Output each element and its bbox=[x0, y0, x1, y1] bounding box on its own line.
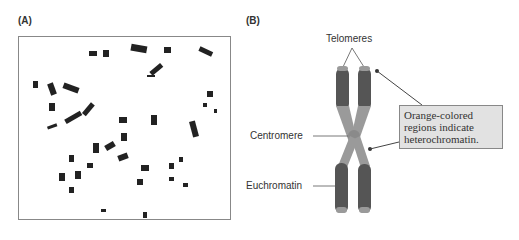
callout-line-2: regions indicate bbox=[404, 121, 498, 133]
telomeres-label: Telomeres bbox=[326, 33, 372, 44]
callout-line-3: heterochromatin. bbox=[404, 133, 498, 145]
euchromatin-lower-right bbox=[358, 164, 371, 213]
callout-line-1: Orange-colored bbox=[404, 109, 498, 121]
centromere-label: Centromere bbox=[250, 130, 303, 141]
euchromatin-upper-left bbox=[336, 68, 349, 110]
euchromatin-lower-left bbox=[335, 163, 348, 213]
euchromatin-upper-right bbox=[358, 68, 371, 110]
heterochromatin-callout: Orange-colored regions indicate heteroch… bbox=[399, 105, 503, 149]
euchromatin-label: Euchromatin bbox=[246, 180, 302, 191]
